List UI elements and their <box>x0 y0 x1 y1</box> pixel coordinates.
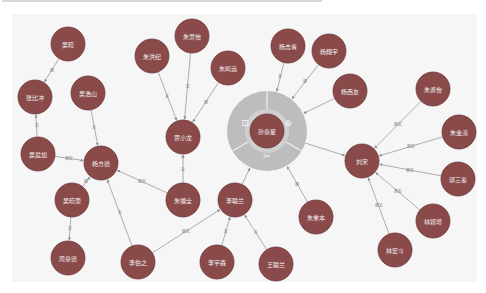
node-label: 朱洪纪 <box>143 53 161 61</box>
node-label: 朱福全 <box>174 197 192 205</box>
edge-label: 朋 <box>84 179 88 184</box>
graph-node[interactable]: 杨志青 <box>271 29 305 63</box>
graph-node[interactable]: 朱洪纪 <box>135 39 169 73</box>
node-label: 杨翔宇 <box>320 48 338 56</box>
graph-node[interactable]: 杨方德 <box>84 146 118 180</box>
graph-node[interactable]: 孙泉星 <box>250 114 284 148</box>
node-label: 吴晓蕾 <box>63 197 81 205</box>
edge-label: 朋友 <box>138 178 146 184</box>
edge-label: 友 <box>118 209 122 215</box>
graph-node[interactable]: 郭三秦 <box>441 162 475 196</box>
node-label: 林颖增 <box>424 218 442 226</box>
node-label: 刘宋 <box>356 158 368 166</box>
graph-node[interactable]: 杨翔宇 <box>312 34 346 68</box>
edge-n19-n_center[interactable] <box>304 98 335 113</box>
edge-label: 友 <box>254 229 258 235</box>
graph-node[interactable]: 杨西友 <box>333 74 367 108</box>
edge-n14-n_center[interactable] <box>242 168 250 184</box>
edge-label: 朋友 <box>394 121 402 127</box>
node-label: 李聪兰 <box>226 197 244 205</box>
relationship-graph[interactable]: 朋友友朋友朋友朋友友友友朋友朋友友友友朋朋朋友朋友朋友朋友朋友 ⊡⊕✂ 吴晓张比… <box>0 0 486 293</box>
node-label: 吴浩山 <box>79 90 97 98</box>
node-label: 林宏斗 <box>386 247 404 255</box>
graph-node[interactable]: 王聪兰 <box>259 247 293 281</box>
graph-node[interactable]: 李聪兰 <box>218 183 252 217</box>
node-label: 杨方德 <box>92 160 110 168</box>
expand-icon[interactable]: ⊕ <box>284 118 292 128</box>
node-label: 朱鸣远 <box>219 65 237 73</box>
node-label: 朱勇怡 <box>424 86 442 94</box>
graph-node[interactable]: 吴晨加 <box>21 137 55 171</box>
graph-node[interactable]: 朱福全 <box>166 183 200 217</box>
edge-label: 朋友 <box>182 228 190 234</box>
edge-label: 友 <box>35 122 39 128</box>
graph-node[interactable]: 李宇森 <box>200 245 234 279</box>
node-label: 周泉德 <box>59 255 77 263</box>
node-label: 朱金涛 <box>450 129 468 137</box>
graph-node[interactable]: 林宏斗 <box>378 233 412 267</box>
graph-node[interactable]: 张比冲 <box>18 80 52 114</box>
node-label: 李伯之 <box>129 259 147 267</box>
node-label: 李宇森 <box>208 259 226 267</box>
hide-icon[interactable]: ✂ <box>263 151 271 161</box>
edge-label: 友 <box>68 225 72 231</box>
edge-n_center-n21[interactable] <box>305 143 345 156</box>
edge-label: 朋 <box>50 68 54 73</box>
node-label: 王聪兰 <box>267 261 285 269</box>
graph-node[interactable]: 朱勇怡 <box>416 72 450 106</box>
node-label: 吴晓 <box>62 41 74 49</box>
graph-node[interactable]: 贾小龙 <box>166 120 200 154</box>
node-label: 杨西友 <box>341 88 359 96</box>
node-label: 朱重本 <box>307 214 325 222</box>
edge-label: 朋友 <box>375 202 383 208</box>
graph-node[interactable]: 吴浩山 <box>71 76 105 110</box>
graph-node[interactable]: 朱重本 <box>299 200 333 234</box>
graph-node[interactable]: 朱金涛 <box>442 115 476 149</box>
graph-node[interactable]: 周泉德 <box>51 241 85 275</box>
graph-node[interactable]: 刘宋 <box>345 144 379 178</box>
graph-node[interactable]: 吴晓 <box>51 27 85 61</box>
edge-label: 友 <box>186 83 190 89</box>
edge-label: 朋 <box>295 182 299 187</box>
node-label: 郭三秦 <box>449 176 467 184</box>
edge-label: 友 <box>278 73 282 79</box>
graph-node[interactable]: 李伯之 <box>121 245 155 279</box>
edge-label: 朋友 <box>394 188 402 194</box>
lock-icon[interactable]: ⊡ <box>241 118 249 128</box>
edge-label: 友 <box>165 93 169 99</box>
node-label: 张比冲 <box>26 94 44 102</box>
edge-label: 朋友 <box>407 143 415 149</box>
node-label: 孙泉星 <box>258 128 276 135</box>
edge-label: 朋 <box>303 79 307 84</box>
node-label: 杨志青 <box>279 43 297 51</box>
edge-label: 朋友 <box>406 167 414 173</box>
graph-node[interactable]: 朱鸣远 <box>211 51 245 85</box>
graph-node[interactable]: 吴晓蕾 <box>55 183 89 217</box>
edge-label: 友 <box>92 124 96 130</box>
edge-label: 朋友 <box>65 155 73 161</box>
node-label: 吴晨加 <box>29 151 47 159</box>
graph-node[interactable]: 林颖增 <box>416 204 450 238</box>
edge-label: 友 <box>181 166 185 172</box>
node-label: 贾小龙 <box>174 134 192 142</box>
node-label: 朱景怡 <box>183 33 201 41</box>
edge-label: 朋 <box>204 100 208 105</box>
edge-label: 友 <box>224 228 228 234</box>
graph-node[interactable]: 朱景怡 <box>175 19 209 53</box>
